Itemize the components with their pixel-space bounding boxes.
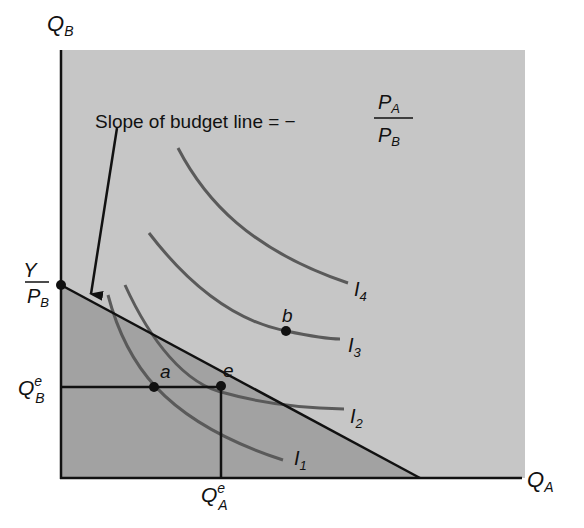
- y-axis-label: QB: [47, 11, 73, 39]
- intercept-denominator: PB: [27, 285, 49, 310]
- budget-line-diagram: QB QA Slope of budget line = − PA PB Y P…: [0, 0, 584, 528]
- point-b: [281, 326, 291, 336]
- intercept-numerator: Y: [23, 259, 38, 281]
- x-axis-label: QA: [527, 467, 553, 495]
- qb-equilibrium-label: QeB: [18, 373, 44, 406]
- point-intercept: [56, 280, 66, 290]
- point-b-label: b: [282, 305, 293, 326]
- point-e: [216, 381, 226, 391]
- qa-equilibrium-label: QeA: [201, 480, 227, 513]
- point-e-label: e: [223, 360, 234, 381]
- slope-annotation-text: Slope of budget line = −: [95, 111, 296, 132]
- point-a: [149, 382, 159, 392]
- point-a-label: a: [160, 361, 171, 382]
